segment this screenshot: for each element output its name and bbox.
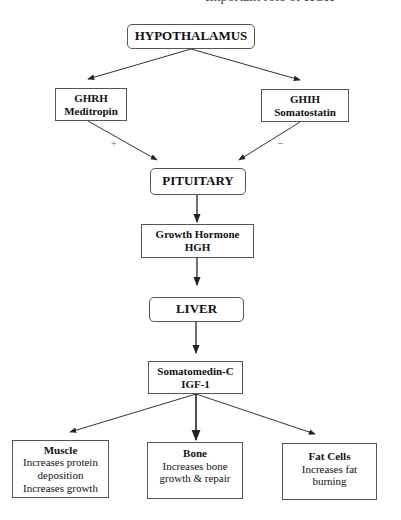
node-line: deposition <box>38 469 84 482</box>
node-title: Muscle <box>44 444 78 457</box>
node-line: burning <box>312 475 346 488</box>
node-line: HGH <box>185 241 211 254</box>
edge-ghih-pituitary <box>239 122 300 160</box>
inhibit-label: – <box>278 137 283 148</box>
node-somatomedin: Somatomedin-C IGF-1 <box>148 361 243 394</box>
edge-hypothalamus-ghih <box>191 49 300 80</box>
node-growth-hormone: Growth Hormone HGH <box>141 224 254 258</box>
edge-ghrh-pituitary <box>88 121 157 160</box>
node-title: Fat Cells <box>309 450 351 463</box>
edge-hypothalamus-ghrh <box>88 49 191 79</box>
node-line: GHIH <box>290 93 320 106</box>
node-pituitary: PITUITARY <box>150 168 246 195</box>
node-line: Somatostatin <box>274 106 336 119</box>
node-line: Increases protein <box>23 456 98 469</box>
node-liver: LIVER <box>149 297 244 322</box>
stimulate-label: + <box>111 138 117 149</box>
node-line: GHRH <box>74 92 108 105</box>
node-fat-cells: Fat Cells Increases fat burning <box>282 443 377 500</box>
node-title: HYPOTHALAMUS <box>135 29 248 44</box>
node-line: IGF-1 <box>181 378 210 391</box>
node-line: growth & repair <box>160 472 231 485</box>
node-title: PITUITARY <box>162 174 234 189</box>
node-hypothalamus: HYPOTHALAMUS <box>127 24 255 49</box>
node-line: Increases bone <box>162 460 227 473</box>
node-ghrh: GHRH Meditropin <box>55 88 127 121</box>
node-ghih: GHIH Somatostatin <box>261 89 349 122</box>
node-title: Bone <box>183 447 207 460</box>
node-line: Somatomedin-C <box>157 365 233 378</box>
node-title: LIVER <box>176 302 217 317</box>
node-line: Increases fat <box>302 463 357 476</box>
node-line: Growth Hormone <box>156 228 240 241</box>
node-line: Meditropin <box>64 105 118 118</box>
node-bone: Bone Increases bone growth & repair <box>147 442 243 499</box>
edge-somatomedin-muscle <box>70 394 196 432</box>
node-line: Increases growth <box>23 482 98 495</box>
node-muscle: Muscle Increases protein deposition Incr… <box>12 440 109 498</box>
edge-somatomedin-fat <box>196 394 315 434</box>
